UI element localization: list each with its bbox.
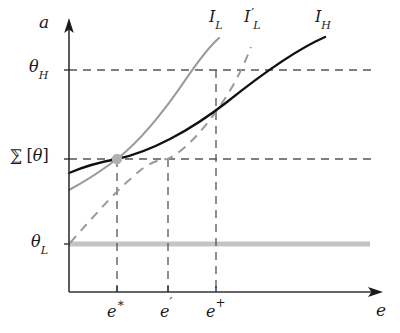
I-L-prime-subscript: L [253, 19, 260, 32]
theta-L-subscript: L [41, 244, 48, 257]
e-prime-superscript: ′ [169, 296, 172, 310]
curve-label-I-H: IH [315, 7, 331, 29]
e-plus-superscript: + [215, 296, 225, 310]
I-H-subscript: H [321, 19, 331, 32]
expectation-operator: ⅀ [ [10, 146, 33, 165]
theta-L-symbol: θ [31, 232, 41, 251]
curve-I-H [69, 37, 325, 173]
expected-theta-symbol: θ [33, 146, 43, 165]
equilibrium-point-marker [112, 154, 122, 164]
y-tick-label-theta-H: θH [29, 57, 48, 79]
y-tick-label-expected-theta: ⅀ [θ] [10, 146, 49, 165]
e-star-superscript: ∗ [116, 296, 124, 310]
I-L-subscript: L [215, 19, 222, 32]
curve-label-I-L-prime: I′L [244, 7, 261, 29]
curve-label-I-L: IL [209, 7, 223, 29]
x-tick-label-e-plus: e+ [206, 300, 226, 321]
x-tick-label-e-prime: e′ [160, 300, 172, 321]
expectation-bracket-close: ] [42, 146, 48, 165]
I-L-prime-base: I [244, 7, 250, 26]
x-tick-label-e-star: e∗ [107, 300, 125, 321]
theta-H-subscript: H [39, 69, 49, 82]
y-axis-label: a [39, 12, 49, 32]
curve-I-L [69, 38, 219, 190]
x-axis-label: e [376, 300, 386, 320]
signalling-diagram-figure: a e θH ⅀ [θ] θL e∗ e′ e+ IL I′L IH [0, 0, 400, 333]
plot-canvas [0, 0, 400, 333]
y-tick-label-theta-L: θL [31, 232, 48, 254]
theta-H-symbol: θ [29, 57, 39, 76]
